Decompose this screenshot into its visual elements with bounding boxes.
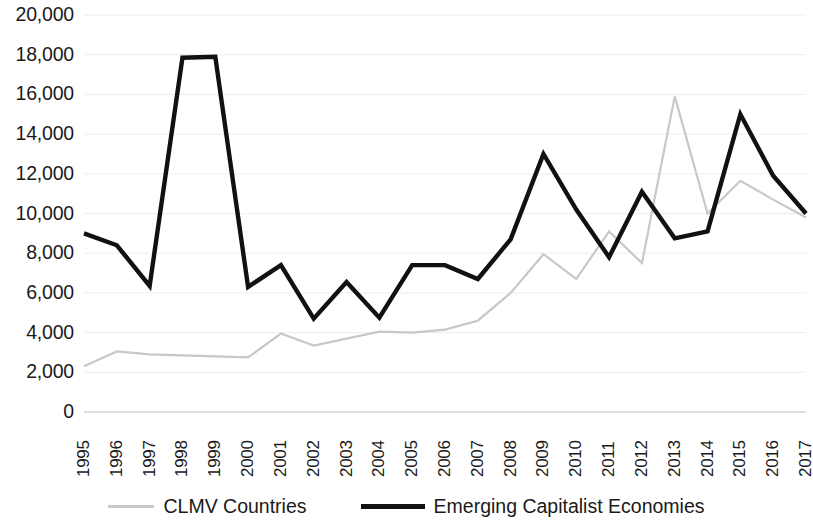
x-axis-tick-label: 2006 <box>436 440 453 477</box>
x-axis-tick-label: 2016 <box>764 440 781 477</box>
x-axis-tick-label: 2015 <box>731 440 748 477</box>
x-axis-tick-label: 2012 <box>633 440 650 477</box>
y-axis-tick-label: 14,000 <box>0 124 74 144</box>
x-axis-tick-label: 2011 <box>600 442 617 477</box>
x-axis-tick-label: 2009 <box>534 440 551 477</box>
chart-legend: CLMV CountriesEmerging Capitalist Econom… <box>0 487 813 525</box>
legend-item[interactable]: CLMV Countries <box>108 496 306 516</box>
legend-label: Emerging Capitalist Economies <box>434 496 705 516</box>
y-axis-tick-label: 4,000 <box>0 323 74 343</box>
x-axis-tick-label: 1998 <box>173 440 190 477</box>
x-axis-tick-label: 2013 <box>666 440 683 477</box>
y-axis-tick-label: 6,000 <box>0 283 74 303</box>
x-axis-tick-label: 2007 <box>469 440 486 477</box>
x-axis-tick-label: 1997 <box>141 440 158 477</box>
y-axis-tick-label: 0 <box>0 402 74 422</box>
y-axis-tick-label: 16,000 <box>0 84 74 104</box>
x-axis-tick-label: 2004 <box>370 440 387 477</box>
x-axis-tick-label: 2017 <box>797 440 813 477</box>
x-axis-tick-label: 2008 <box>502 440 519 477</box>
y-axis-tick-label: 10,000 <box>0 204 74 224</box>
x-axis-tick-label: 2000 <box>239 440 256 477</box>
legend-label: CLMV Countries <box>163 496 306 516</box>
line-chart: 20,00018,00016,00014,00012,00010,0008,00… <box>0 0 813 525</box>
solid-line-marker <box>361 504 425 509</box>
y-axis-tick-label: 18,000 <box>0 45 74 65</box>
dotted-line-marker <box>108 505 154 508</box>
x-axis-tick-label: 1999 <box>206 440 223 477</box>
x-axis-tick-label: 2005 <box>403 440 420 477</box>
y-axis-tick-label: 12,000 <box>0 164 74 184</box>
y-axis-tick-label: 20,000 <box>0 5 74 25</box>
series-line-emerging-capitalist-economies <box>84 57 806 319</box>
x-axis-tick-label: 2010 <box>567 440 584 477</box>
x-axis-tick-label: 1996 <box>108 440 125 477</box>
x-axis-tick-label: 2003 <box>338 440 355 477</box>
legend-item[interactable]: Emerging Capitalist Economies <box>361 496 705 516</box>
y-axis-tick-label: 8,000 <box>0 243 74 263</box>
x-axis-tick-label: 2002 <box>305 440 322 477</box>
x-axis-tick-label: 2014 <box>699 440 716 477</box>
x-axis-tick-label: 2001 <box>272 440 289 477</box>
x-axis-tick-label: 1995 <box>75 440 92 477</box>
y-axis-tick-label: 2,000 <box>0 362 74 382</box>
